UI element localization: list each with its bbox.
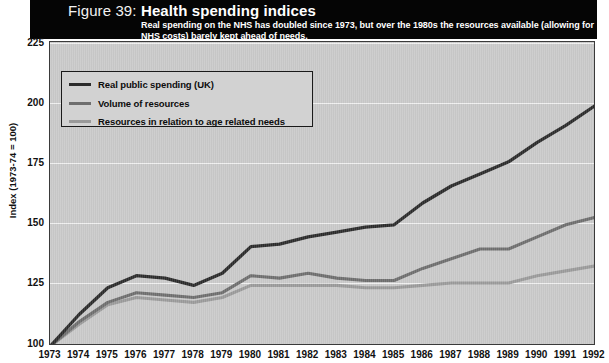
legend-label-volume-of-resources: Volume of resources bbox=[98, 98, 189, 109]
y-tick-125: 125 bbox=[0, 277, 44, 288]
legend-label-real-public-spending: Real public spending (UK) bbox=[98, 79, 214, 90]
figure-number: Figure 39: bbox=[68, 2, 137, 19]
y-tick-225: 225 bbox=[0, 37, 44, 48]
figure-subtitle: Real spending on the NHS has doubled sin… bbox=[141, 20, 609, 41]
legend-label-resources-age-needs: Resources in relation to age related nee… bbox=[98, 116, 285, 127]
legend-swatch-resources-age-needs bbox=[69, 120, 91, 123]
series-line-real-public-spending bbox=[51, 106, 595, 345]
legend-swatch-real-public-spending bbox=[69, 83, 91, 86]
figure-header-band: Figure 39: Health spending indices Real … bbox=[30, 0, 597, 39]
x-tick-1992: 1992 bbox=[577, 349, 609, 360]
legend-swatch-volume-of-resources bbox=[69, 102, 91, 105]
legend-item-volume-of-resources: Volume of resources bbox=[69, 97, 189, 109]
legend-item-real-public-spending: Real public spending (UK) bbox=[69, 78, 214, 90]
legend-box: Real public spending (UK) Volume of reso… bbox=[61, 71, 313, 127]
legend-item-resources-age-needs: Resources in relation to age related nee… bbox=[69, 115, 285, 127]
y-tick-100: 100 bbox=[0, 338, 44, 349]
y-axis-title: Index (1973-74 = 100) bbox=[7, 96, 18, 246]
figure-title: Health spending indices bbox=[141, 2, 316, 19]
